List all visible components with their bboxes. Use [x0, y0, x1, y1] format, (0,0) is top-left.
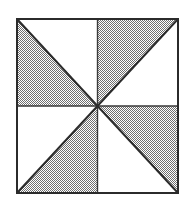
pinwheel-figure	[0, 0, 193, 209]
figure-canvas	[0, 0, 193, 209]
